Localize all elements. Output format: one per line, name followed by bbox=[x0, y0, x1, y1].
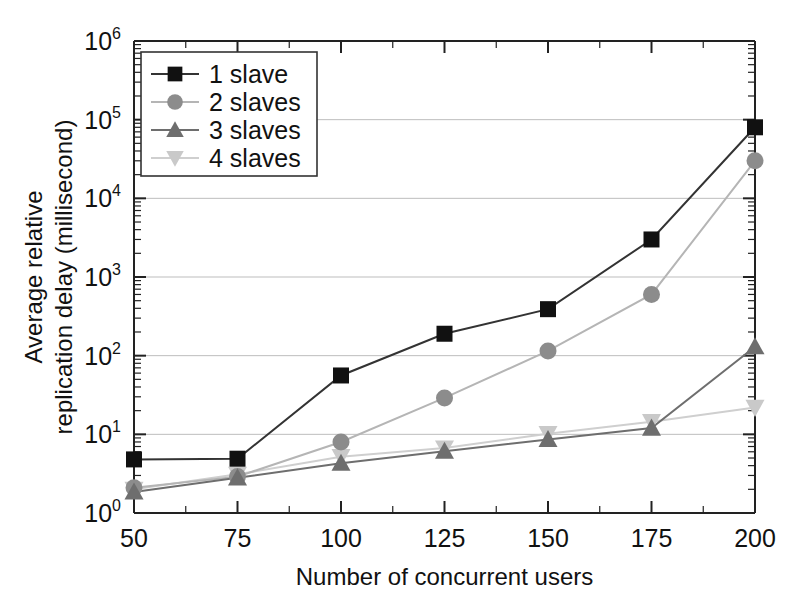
data-point-s1 bbox=[540, 301, 556, 317]
xtick-label: 200 bbox=[734, 524, 776, 552]
ytick-label: 105 bbox=[84, 104, 121, 134]
xtick-label: 50 bbox=[120, 524, 148, 552]
y-tick-labels: 100101102103104105106 bbox=[84, 25, 121, 527]
chart-legend[interactable]: 1 slave2 slaves3 slaves4 slaves bbox=[141, 52, 317, 176]
ytick-label: 101 bbox=[84, 418, 121, 448]
data-point-s1 bbox=[126, 451, 142, 467]
legend-label-3: 3 slaves bbox=[209, 116, 301, 144]
data-point-s1 bbox=[230, 451, 246, 467]
data-point-s1 bbox=[333, 367, 349, 383]
legend-label-1: 1 slave bbox=[209, 60, 288, 88]
legend-label-2: 2 slaves bbox=[209, 88, 301, 116]
data-point-s2 bbox=[540, 342, 557, 359]
data-point-s2 bbox=[436, 389, 453, 406]
data-point-s2 bbox=[643, 286, 660, 303]
series-line-1 bbox=[134, 127, 755, 459]
replication-delay-chart: 100101102103104105106 507510012515017520… bbox=[0, 0, 797, 607]
y-axis-title-line2: replication delay (millisecond) bbox=[50, 120, 77, 435]
xtick-label: 75 bbox=[224, 524, 252, 552]
x-tick-labels: 5075100125150175200 bbox=[120, 524, 776, 552]
ytick-label: 103 bbox=[84, 261, 121, 291]
series-line-3 bbox=[134, 347, 755, 492]
legend-marker-2 bbox=[167, 94, 183, 110]
series-line-2 bbox=[134, 161, 755, 488]
x-axis-title: Number of concurrent users bbox=[296, 563, 593, 590]
ytick-label: 102 bbox=[84, 340, 121, 370]
legend-label-4: 4 slaves bbox=[209, 144, 301, 172]
data-point-s1 bbox=[437, 326, 453, 342]
xtick-label: 150 bbox=[527, 524, 569, 552]
ytick-label: 106 bbox=[84, 25, 121, 55]
data-point-s2 bbox=[333, 433, 350, 450]
legend-marker-1 bbox=[168, 67, 183, 82]
xtick-label: 175 bbox=[631, 524, 673, 552]
data-point-s1 bbox=[644, 231, 660, 247]
data-point-s3 bbox=[746, 337, 765, 354]
xtick-label: 125 bbox=[424, 524, 466, 552]
ytick-label: 104 bbox=[84, 182, 121, 212]
ytick-label: 100 bbox=[84, 497, 121, 527]
data-point-s1 bbox=[747, 119, 763, 135]
y-axis-title-line1: Average relative bbox=[20, 191, 47, 364]
figure-canvas: 100101102103104105106 507510012515017520… bbox=[0, 0, 797, 607]
data-point-s2 bbox=[747, 152, 764, 169]
xtick-label: 100 bbox=[320, 524, 362, 552]
